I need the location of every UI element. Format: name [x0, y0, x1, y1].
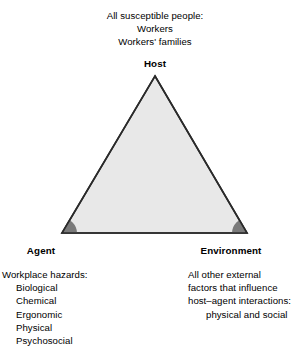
environment-description-line: host–agent interactions:: [188, 294, 291, 307]
triangle-outline: [62, 76, 247, 233]
environment-vertex-label: Environment: [201, 244, 262, 257]
agent-hazard-item: Biological: [2, 281, 88, 294]
environment-description: All other external factors that influenc…: [188, 268, 291, 321]
host-description-line: Workers' families: [107, 35, 204, 48]
host-description: All susceptible people: Workers Workers'…: [107, 9, 204, 49]
environment-description-line: All other external: [188, 268, 291, 281]
agent-hazard-item: Chemical: [2, 294, 88, 307]
epidemiologic-triangle-diagram: All susceptible people: Workers Workers'…: [0, 0, 308, 362]
agent-description-heading: Workplace hazards:: [2, 268, 88, 281]
agent-vertex-label: Agent: [27, 244, 55, 257]
agent-hazard-item: Physical: [2, 321, 88, 334]
host-description-line: Workers: [107, 22, 204, 35]
triangle-body: [62, 76, 247, 233]
host-vertex-label: Host: [144, 57, 166, 70]
host-description-line: All susceptible people:: [107, 9, 204, 22]
environment-description-subline: physical and social: [188, 308, 291, 321]
environment-description-line: factors that influence: [188, 281, 291, 294]
agent-hazard-item: Ergonomic: [2, 308, 88, 321]
agent-description: Workplace hazards: Biological Chemical E…: [2, 268, 88, 347]
agent-hazard-item: Psychosocial: [2, 334, 88, 347]
